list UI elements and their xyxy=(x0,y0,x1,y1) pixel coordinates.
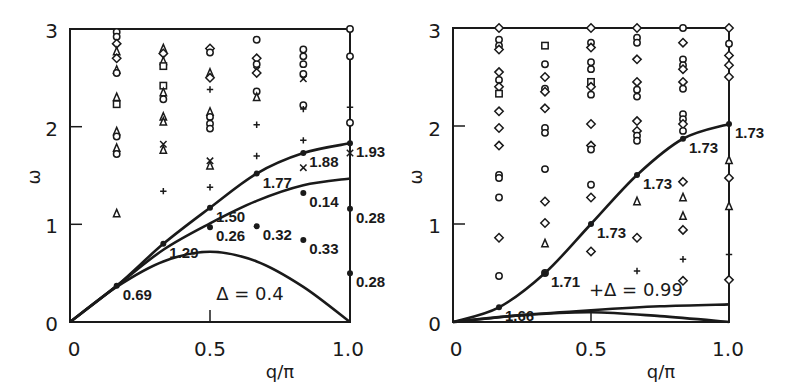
data-point-marker xyxy=(495,234,503,242)
data-point-marker xyxy=(679,178,687,186)
data-point-marker xyxy=(207,184,213,190)
left-ytick-label-1: 1 xyxy=(45,214,58,238)
data-point-marker xyxy=(588,59,594,65)
point-value-label: 0.26 xyxy=(216,227,245,244)
left-point-labels: 0.691.291.501.771.881.930.140.260.320.33… xyxy=(114,140,386,303)
data-point-marker xyxy=(542,130,548,136)
point-value-label: 1.73 xyxy=(689,139,718,156)
point-value-label: 1.29 xyxy=(169,244,198,261)
point-value-label: 1.73 xyxy=(735,124,764,141)
left-xtick-label-0: 0 xyxy=(68,337,81,361)
data-point-marker xyxy=(347,26,353,32)
data-point-marker xyxy=(253,122,259,128)
data-point-marker xyxy=(300,46,306,52)
data-point-marker xyxy=(253,61,259,67)
right-ytick-label-2: 2 xyxy=(428,117,441,141)
data-point-marker xyxy=(725,61,733,69)
data-point-marker xyxy=(680,212,686,219)
data-point-marker xyxy=(495,141,503,149)
data-point-marker xyxy=(634,40,640,46)
data-point-marker xyxy=(113,101,119,107)
data-point-marker xyxy=(542,239,548,246)
left-scatter-points xyxy=(112,26,353,217)
data-point-marker xyxy=(207,125,213,131)
point-value-label: 1.66 xyxy=(505,307,534,324)
data-point-marker xyxy=(252,69,260,77)
left-xtick-label-10: 1.0 xyxy=(332,337,364,361)
data-point-marker xyxy=(113,70,119,76)
data-point-marker xyxy=(300,53,306,59)
point-value-label: 1.50 xyxy=(216,208,245,225)
right-xaxis-label: q/π xyxy=(647,361,675,382)
data-point-marker xyxy=(207,86,213,92)
labeled-point-dot xyxy=(347,140,353,146)
point-value-label: 1.88 xyxy=(309,153,338,170)
labeled-point-dot xyxy=(160,241,166,247)
data-point-marker xyxy=(496,175,502,181)
data-point-marker xyxy=(253,37,259,43)
labeled-point-dot xyxy=(634,172,640,178)
data-point-marker xyxy=(347,104,353,110)
point-value-label: 0.28 xyxy=(356,209,385,226)
data-point-marker xyxy=(680,128,686,134)
data-point-marker xyxy=(113,151,119,157)
data-point-marker xyxy=(633,24,641,32)
point-value-label: 0.69 xyxy=(123,286,152,303)
left-ytick-label-0: 0 xyxy=(45,312,58,336)
data-point-marker xyxy=(496,273,502,279)
data-point-marker xyxy=(160,188,166,194)
right-ytick-label-3: 3 xyxy=(428,19,441,43)
data-point-marker xyxy=(725,174,733,182)
data-point-marker xyxy=(253,153,259,159)
data-point-marker xyxy=(680,86,686,92)
data-point-marker xyxy=(680,256,686,262)
data-point-marker xyxy=(726,251,732,257)
data-point-marker xyxy=(633,55,641,63)
labeled-point-dot xyxy=(254,171,260,177)
data-point-marker xyxy=(588,66,594,72)
data-point-marker xyxy=(495,124,503,132)
data-point-marker xyxy=(347,53,353,59)
data-point-marker xyxy=(495,107,503,115)
left-xaxis-label: q/π xyxy=(266,361,294,382)
data-point-marker xyxy=(725,24,733,32)
data-point-marker xyxy=(495,24,503,32)
labeled-point-dot xyxy=(300,190,306,196)
data-point-marker xyxy=(541,197,549,205)
data-point-marker xyxy=(679,39,687,47)
labeled-point-dot xyxy=(254,223,260,229)
data-point-marker xyxy=(725,51,733,59)
right-xtick-label-05: 0.5 xyxy=(575,337,607,361)
dispersion-curve xyxy=(70,178,350,322)
right-xtick-label-0: 0 xyxy=(450,337,463,361)
left-yaxis-label: ω xyxy=(23,169,44,184)
point-value-label: 0.14 xyxy=(309,193,339,210)
data-point-marker xyxy=(587,24,595,32)
data-point-marker xyxy=(588,182,594,188)
point-value-label: 1.73 xyxy=(643,175,672,192)
data-point-marker xyxy=(541,219,549,227)
data-point-marker xyxy=(113,209,119,216)
data-point-marker xyxy=(588,146,594,152)
labeled-point-dot xyxy=(114,283,120,289)
labeled-point-dot xyxy=(542,270,548,276)
data-point-marker xyxy=(587,193,595,201)
point-value-label: 1.73 xyxy=(597,224,626,241)
data-point-marker xyxy=(634,197,640,204)
point-value-label: 1.93 xyxy=(356,143,385,160)
data-point-marker xyxy=(633,78,641,86)
labeled-point-dot xyxy=(680,136,686,142)
data-point-marker xyxy=(726,202,732,209)
data-point-marker xyxy=(587,120,595,128)
data-point-marker xyxy=(347,120,353,126)
left-ytick-label-3: 3 xyxy=(45,19,58,43)
right-ytick-label-1: 1 xyxy=(428,214,441,238)
data-point-marker xyxy=(541,104,549,112)
left-curves xyxy=(70,143,350,322)
point-value-label: 0.28 xyxy=(356,273,385,290)
data-point-marker xyxy=(634,268,640,274)
dispersion-curve xyxy=(70,143,350,322)
data-point-marker xyxy=(300,137,306,143)
point-value-label: 0.32 xyxy=(263,226,292,243)
data-point-marker xyxy=(679,226,687,234)
